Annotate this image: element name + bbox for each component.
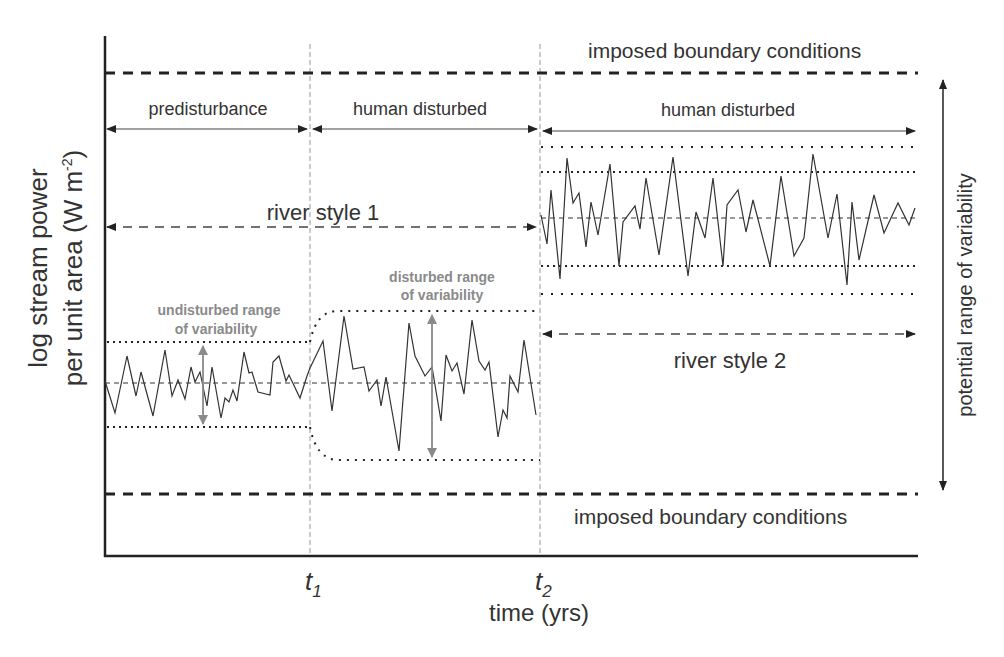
tick-t2: t2 bbox=[535, 566, 552, 601]
undisturbed-range-label-line2: of variability bbox=[175, 321, 258, 337]
phase-label-human-disturbed-2: human disturbed bbox=[661, 100, 795, 120]
y-axis-label-line2-text: per unit area (W m bbox=[58, 171, 88, 386]
phase-label-predisturbance: predisturbance bbox=[148, 99, 267, 119]
boundary-bottom-label: imposed boundary conditions bbox=[574, 505, 847, 528]
river-style-2-label: river style 2 bbox=[674, 348, 786, 373]
signal-predisturbance bbox=[105, 350, 307, 418]
phase-label-human-disturbed-1: human disturbed bbox=[353, 99, 487, 119]
stream-power-diagram: imposed boundary conditions imposed boun… bbox=[0, 0, 1004, 657]
y-axis-label-superscript: -2 bbox=[59, 158, 75, 171]
x-axis-label: time (yrs) bbox=[489, 599, 589, 626]
y-axis-label-line1: log stream power bbox=[23, 168, 53, 368]
disturbed-range-label-line2: of variability bbox=[401, 287, 484, 303]
boundary-top-label: imposed boundary conditions bbox=[588, 39, 861, 62]
disturbed-lower-bound bbox=[310, 427, 540, 460]
y-axis-label-close: ) bbox=[58, 150, 88, 159]
disturbed-upper-bound bbox=[310, 311, 540, 342]
tick-t1-sub: 1 bbox=[312, 582, 321, 601]
undisturbed-range-label-line1: undisturbed range bbox=[158, 302, 281, 318]
potential-range-label: potential range of variability bbox=[954, 173, 976, 416]
river-style-1-label: river style 1 bbox=[267, 200, 379, 225]
tick-t1: t1 bbox=[305, 566, 322, 601]
y-axis-label-line2: per unit area (W m-2) bbox=[58, 150, 88, 386]
disturbed-range-label-line1: disturbed range bbox=[389, 269, 495, 285]
